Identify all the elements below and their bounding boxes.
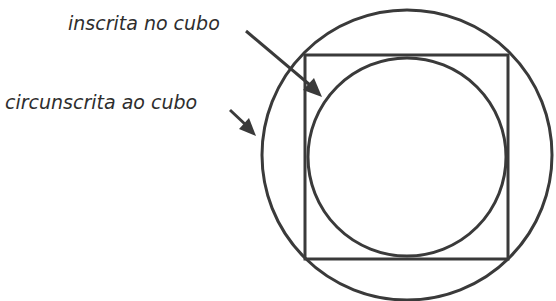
arrow-inscribed-icon <box>246 31 322 97</box>
inscribed-sphere <box>308 58 506 256</box>
sphere-cube-diagram: inscrita no cubo circunscrita ao cubo <box>0 0 556 301</box>
label-circumscribed: circunscrita ao cubo <box>5 91 197 113</box>
arrow-circumscribed-icon <box>230 110 256 136</box>
label-inscribed: inscrita no cubo <box>68 12 220 34</box>
